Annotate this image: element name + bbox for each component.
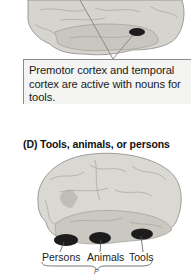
brain-illustration-bottom xyxy=(0,0,191,277)
brace-note: P xyxy=(94,268,99,275)
label-persons: Persons xyxy=(42,251,81,263)
activation-spot-animals xyxy=(89,232,111,244)
label-animals: Animals xyxy=(87,251,124,263)
activation-spot-persons xyxy=(54,234,78,246)
activation-spot-tools xyxy=(131,229,153,240)
label-tools: Tools xyxy=(129,251,154,263)
